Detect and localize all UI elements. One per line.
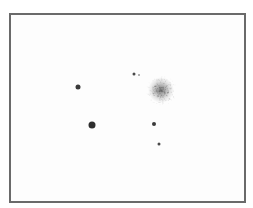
star: [76, 85, 81, 90]
star: [152, 122, 156, 126]
star: [138, 74, 140, 76]
star: [89, 122, 96, 129]
star-field: [0, 0, 253, 208]
star: [158, 143, 161, 146]
star: [133, 73, 136, 76]
